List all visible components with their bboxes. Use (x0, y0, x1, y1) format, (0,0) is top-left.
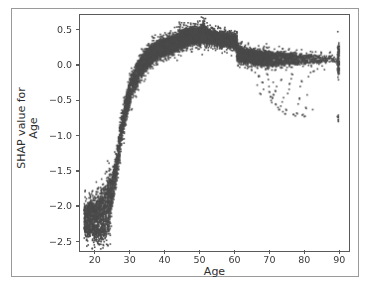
y-tick-mark (76, 100, 80, 101)
y-tick-label: −1.5 (12, 165, 72, 176)
y-tick-label: 0.5 (12, 24, 72, 35)
clipped-header-text (14, 0, 134, 5)
y-tick-mark (76, 205, 80, 206)
y-tick-label: 0.0 (12, 59, 72, 70)
y-tick-label: −2.5 (12, 236, 72, 247)
y-tick-label: −2.0 (12, 200, 72, 211)
x-tick-label: 70 (263, 254, 275, 265)
x-axis-label: Age (79, 265, 350, 278)
y-tick-label: −1.0 (12, 130, 72, 141)
x-tick-mark (339, 250, 340, 254)
x-tick-label: 30 (124, 254, 136, 265)
figure-frame: SHAP value for Age Age 0.50.0−0.5−1.0−1.… (11, 8, 359, 277)
x-tick-label: 50 (193, 254, 205, 265)
x-tick-label: 40 (159, 254, 171, 265)
x-tick-mark (234, 250, 235, 254)
x-tick-label: 60 (228, 254, 240, 265)
x-tick-label: 90 (333, 254, 345, 265)
y-tick-mark (76, 64, 80, 65)
figure-caption (0, 284, 370, 294)
x-tick-label: 20 (89, 254, 101, 265)
y-tick-mark (76, 241, 80, 242)
y-tick-label: −0.5 (12, 94, 72, 105)
x-tick-mark (304, 250, 305, 254)
y-tick-mark (76, 29, 80, 30)
x-tick-mark (129, 250, 130, 254)
x-tick-mark (94, 250, 95, 254)
x-tick-mark (164, 250, 165, 254)
x-tick-mark (199, 250, 200, 254)
x-tick-label: 80 (298, 254, 310, 265)
plot-axes (79, 14, 350, 252)
x-tick-mark (269, 250, 270, 254)
y-tick-mark (76, 135, 80, 136)
scatter-plot-canvas (80, 15, 349, 251)
y-tick-mark (76, 170, 80, 171)
